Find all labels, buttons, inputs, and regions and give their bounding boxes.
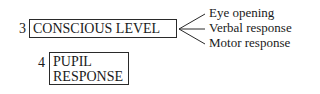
pupil-response-label-line2: RESPONSE	[53, 69, 125, 84]
branch-verbal-response: Verbal response	[209, 21, 292, 35]
item-number-4: 4	[38, 55, 45, 71]
branch-eye-opening: Eye opening	[209, 6, 274, 20]
pupil-response-box: PUPIL RESPONSE	[49, 52, 129, 85]
pupil-response-label-line1: PUPIL	[53, 54, 125, 69]
branch-motor-response: Motor response	[209, 36, 290, 50]
